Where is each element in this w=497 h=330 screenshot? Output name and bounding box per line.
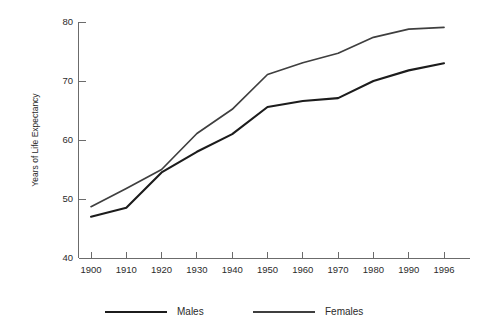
chart-legend: MalesFemales [105, 306, 363, 317]
x-tick-label: 1930 [186, 264, 207, 275]
y-axis-ticks: 4050607080 [62, 16, 86, 263]
y-tick-label: 60 [62, 134, 73, 145]
y-axis-title-group: Years of Life Expectancy [30, 93, 40, 187]
x-tick-label: 1950 [257, 264, 278, 275]
chart-canvas: Years of Life Expectancy 4050607080 1900… [0, 0, 497, 330]
x-tick-label: 1996 [433, 264, 454, 275]
y-tick-label: 80 [62, 16, 73, 27]
legend-label-males: Males [177, 306, 204, 317]
x-tick-label: 1980 [363, 264, 384, 275]
x-tick-label: 1900 [80, 264, 101, 275]
y-tick-label: 70 [62, 75, 73, 86]
x-tick-label: 1940 [222, 264, 243, 275]
life-expectancy-line-chart: Years of Life Expectancy 4050607080 1900… [0, 0, 497, 330]
y-axis-title: Years of Life Expectancy [30, 93, 40, 187]
series-group [91, 27, 444, 216]
series-line-males [91, 63, 444, 216]
series-line-females [91, 27, 444, 206]
x-tick-label: 1920 [151, 264, 172, 275]
x-tick-label: 1960 [292, 264, 313, 275]
legend-label-females: Females [325, 306, 363, 317]
x-tick-label: 1970 [328, 264, 349, 275]
x-axis-ticks: 1900191019201930194019501960197019801990… [80, 252, 454, 275]
y-tick-label: 40 [62, 252, 73, 263]
y-tick-label: 50 [62, 193, 73, 204]
x-tick-label: 1910 [116, 264, 137, 275]
x-tick-label: 1990 [398, 264, 419, 275]
